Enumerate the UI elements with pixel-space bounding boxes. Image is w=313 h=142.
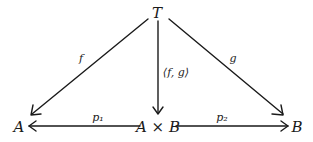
arrow-f	[31, 19, 148, 115]
node-A: A	[14, 120, 25, 135]
arrow-p2	[176, 121, 288, 131]
label-p1: p₁	[92, 112, 103, 123]
product-diagram: T A A × B B f ⟨f, g⟩ g p₁ p₂	[0, 0, 313, 142]
label-g: g	[229, 53, 236, 64]
label-f: f	[79, 53, 83, 64]
node-A-times-B: A × B	[136, 120, 180, 135]
label-pairing: ⟨f, g⟩	[163, 67, 189, 78]
arrow-pairing	[153, 21, 163, 114]
arrow-p1	[29, 121, 140, 131]
node-B: B	[291, 120, 302, 135]
node-T: T	[152, 6, 162, 21]
label-p2: p₂	[216, 112, 227, 123]
